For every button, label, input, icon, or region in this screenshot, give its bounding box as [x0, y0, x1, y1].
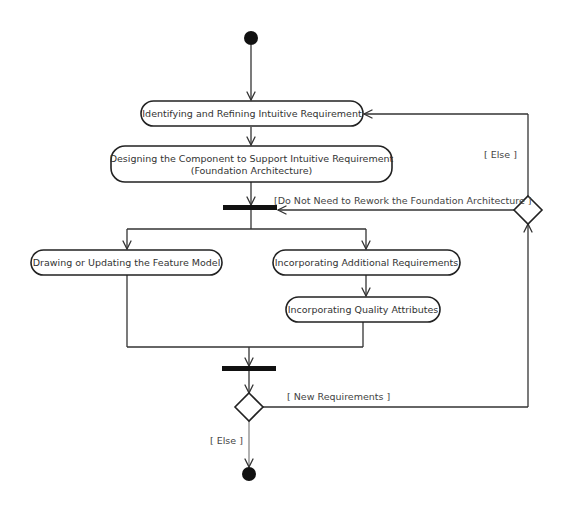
- action-node-identify: Identifying and Refining Intuitive Requi…: [141, 101, 363, 126]
- guard-new-requirements: [ New Requirements ]: [287, 391, 390, 402]
- action-label: Incorporating Quality Attributes: [288, 304, 439, 315]
- action-node-feature: Drawing or Updating the Feature Model: [31, 250, 222, 275]
- activity-diagram: Identifying and Refining Intuitive Requi…: [0, 0, 566, 506]
- action-node-quality: Incorporating Quality Attributes: [286, 297, 440, 322]
- guard-else-top: [ Else ]: [484, 149, 517, 160]
- new-requirements-decision-node: [235, 393, 263, 421]
- action-label: Identifying and Refining Intuitive Requi…: [142, 108, 362, 119]
- fork-bar: [223, 205, 277, 210]
- action-node-design: Designing the Component to Support Intui…: [110, 146, 394, 182]
- action-label: Incorporating Additional Requirements: [275, 257, 459, 268]
- action-label: (Foundation Architecture): [191, 165, 313, 176]
- action-node-additional: Incorporating Additional Requirements: [273, 250, 460, 275]
- join-bar: [222, 366, 276, 371]
- guard-no-rework: [Do Not Need to Rework the Foundation Ar…: [274, 195, 532, 206]
- final-node: [242, 467, 256, 481]
- action-label: Drawing or Updating the Feature Model: [33, 257, 221, 268]
- action-label: Designing the Component to Support Intui…: [110, 153, 394, 164]
- action-nodes: Identifying and Refining Intuitive Requi…: [31, 101, 460, 322]
- guard-else-bottom: [ Else ]: [210, 435, 243, 446]
- initial-node: [244, 31, 258, 45]
